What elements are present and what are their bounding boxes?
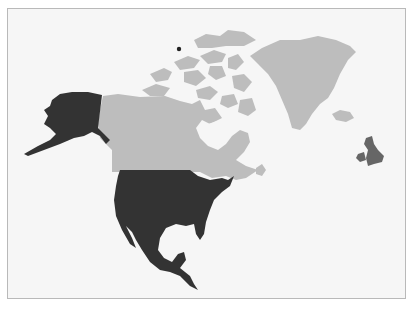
north-pole-marker <box>177 47 181 51</box>
north-america-map <box>0 0 416 313</box>
iceland-region <box>332 110 354 122</box>
alaska-region <box>24 92 110 156</box>
newfoundland-region <box>256 164 266 176</box>
usa-mexico-region <box>114 170 234 290</box>
uk-ireland-region <box>356 136 384 166</box>
canada-region <box>98 94 258 180</box>
